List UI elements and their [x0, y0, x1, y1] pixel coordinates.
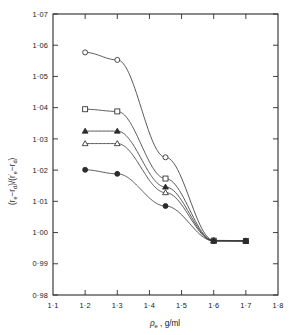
y-tick-label: 1·07	[33, 10, 48, 19]
marker-open-square	[115, 109, 120, 114]
marker-filled-circle	[163, 204, 168, 209]
marker-open-square	[83, 107, 88, 112]
x-tick-label: 1·1	[47, 301, 58, 310]
y-tick-label: 0·98	[33, 291, 48, 300]
y-tick-label: 1·06	[33, 41, 48, 50]
svg-text:ρe , g/ml: ρe , g/ml	[149, 319, 180, 329]
y-tick-label: 1·03	[33, 135, 48, 144]
x-tick-label: 1·3	[112, 301, 123, 310]
marker-open-circle	[163, 155, 168, 160]
x-tick-label: 1·8	[272, 301, 283, 310]
curve-open-square	[85, 109, 246, 241]
line-chart: (re−rd)/(r′e−rd) ρe , g/ml 0·980·991·001…	[0, 0, 293, 335]
y-tick-label: 0·99	[33, 259, 48, 268]
data-markers	[82, 50, 249, 244]
y-axis-ticks: 0·980·991·001·011·021·031·041·051·061·07	[33, 10, 278, 300]
y-tick-label: 1·01	[33, 197, 48, 206]
marker-filled-circle	[83, 167, 88, 172]
y-tick-label: 1·04	[33, 103, 48, 112]
marker-filled-circle	[243, 238, 248, 243]
x-axis-title: ρe , g/ml	[149, 319, 180, 329]
x-tick-label: 1·2	[80, 301, 91, 310]
chart-figure: (re−rd)/(r′e−rd) ρe , g/ml 0·980·991·001…	[0, 0, 293, 335]
x-tick-label: 1·6	[208, 301, 219, 310]
curve-open-circle	[85, 52, 246, 240]
marker-open-circle	[115, 57, 120, 62]
marker-filled-circle	[211, 238, 216, 243]
y-axis-title: (re−rd)/(r′e−rd)	[7, 157, 18, 205]
x-tick-label: 1·5	[176, 301, 187, 310]
data-curves	[85, 52, 246, 241]
y-tick-label: 1·05	[33, 72, 48, 81]
marker-open-circle	[83, 50, 88, 55]
y-tick-label: 1·00	[33, 228, 48, 237]
marker-open-square	[163, 176, 168, 181]
y-tick-label: 1·02	[33, 166, 48, 175]
x-axis-ticks: 1·11·21·31·41·51·61·71·8	[47, 14, 283, 310]
marker-filled-circle	[115, 171, 120, 176]
x-tick-label: 1·7	[240, 301, 251, 310]
svg-text:(re−rd)/(r′e−rd): (re−rd)/(r′e−rd)	[7, 157, 18, 205]
x-tick-label: 1·4	[144, 301, 155, 310]
